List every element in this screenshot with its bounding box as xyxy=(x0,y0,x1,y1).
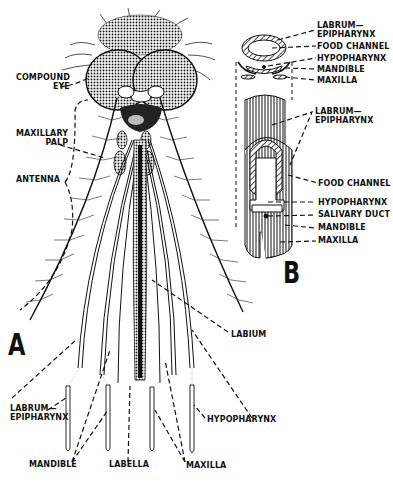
label-compound-eye: COMPOUND EYE xyxy=(16,73,70,91)
label-text: LABRUM— xyxy=(10,404,68,413)
cutaway-proboscis xyxy=(245,95,292,258)
label-text: LABRUM— xyxy=(315,107,373,116)
label-text: COMPOUND xyxy=(16,73,70,82)
label-text: EPIPHARYNX xyxy=(317,30,375,39)
label-text: LABRUM— xyxy=(317,21,375,30)
label-labium: LABIUM xyxy=(231,330,266,339)
label-text: MAXILLARY xyxy=(16,129,68,138)
label-antenna: ANTENNA xyxy=(16,175,60,184)
label-b-salivary-duct: SALIVARY DUCT xyxy=(318,210,390,219)
cross-section xyxy=(238,35,290,79)
label-labrum-epipharynx: LABRUM— EPIPHARYNX xyxy=(10,404,68,422)
label-text: EPIPHARYNX xyxy=(10,413,68,422)
label-b-labrum-epipharynx-cross: LABRUM— EPIPHARYNX xyxy=(317,21,375,39)
label-labella: LABELLA xyxy=(109,460,149,469)
label-hypopharynx: HYPOPHARYNX xyxy=(207,415,276,424)
label-b-maxilla-cross: MAXILLA xyxy=(317,76,357,85)
head-vertex xyxy=(98,15,182,55)
panel-letter-a: A xyxy=(8,330,25,360)
panel-letter-b: B xyxy=(283,258,300,288)
label-b-mandible-cross: MANDIBLE xyxy=(317,65,365,74)
label-b-mandible-cutaway: MANDIBLE xyxy=(318,223,366,232)
label-maxilla: MAXILLA xyxy=(186,461,226,470)
label-b-food-channel-cutaway: FOOD CHANNEL xyxy=(318,179,390,188)
label-b-hypopharynx-cross: HYPOPHARYNX xyxy=(317,54,386,63)
label-maxillary-palp: MAXILLARY PALP xyxy=(16,129,68,147)
label-text: EPIPHARYNX xyxy=(315,116,373,125)
label-b-labrum-epipharynx-cutaway: LABRUM— EPIPHARYNX xyxy=(315,107,373,125)
label-b-hypopharynx-cutaway: HYPOPHARYNX xyxy=(318,198,387,207)
label-b-food-channel-cross: FOOD CHANNEL xyxy=(317,42,389,51)
label-mandible: MANDIBLE xyxy=(29,460,77,469)
label-text: PALP xyxy=(16,138,68,147)
label-b-maxilla-cutaway: MAXILLA xyxy=(318,236,358,245)
label-text: EYE xyxy=(16,82,70,91)
